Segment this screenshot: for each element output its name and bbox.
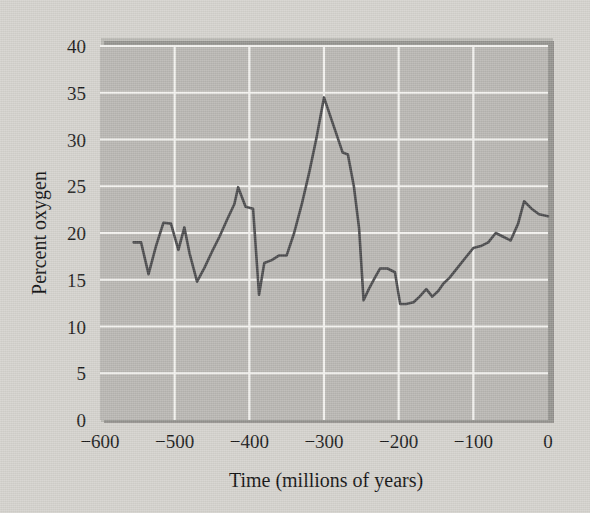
x-tick-label--100: −100 (454, 431, 493, 452)
x-tick-label--200: −200 (379, 431, 418, 452)
y-tick-label-35: 35 (67, 83, 86, 104)
percent-oxygen-line-chart: 0510152025303540 −600−500−400−300−200−10… (0, 0, 590, 513)
x-tick-label--500: −500 (155, 431, 194, 452)
y-axis-title: Percent oxygen (28, 171, 51, 295)
y-tick-label-20: 20 (67, 223, 86, 244)
x-axis-tick-labels: −600−500−400−300−200−1000 (80, 431, 552, 452)
y-tick-label-15: 15 (67, 270, 86, 291)
y-tick-label-40: 40 (67, 36, 86, 57)
x-tick-label--300: −300 (304, 431, 343, 452)
y-tick-label-10: 10 (67, 317, 86, 338)
x-tick-label--600: −600 (80, 431, 119, 452)
oxygen-over-time-figure: 0510152025303540 −600−500−400−300−200−10… (0, 0, 590, 513)
x-tick-label--400: −400 (230, 431, 269, 452)
y-axis-tick-labels: 0510152025303540 (67, 36, 86, 431)
x-tick-label-0: 0 (543, 431, 553, 452)
y-tick-label-5: 5 (77, 363, 87, 384)
y-tick-label-0: 0 (77, 410, 87, 431)
y-tick-label-25: 25 (67, 176, 86, 197)
x-axis-title: Time (millions of years) (229, 469, 423, 492)
y-tick-label-30: 30 (67, 130, 86, 151)
